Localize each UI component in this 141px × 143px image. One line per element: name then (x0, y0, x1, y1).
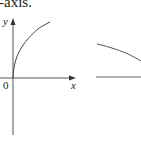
x-axis-label: x (71, 80, 76, 91)
origin-label: 0 (3, 80, 9, 91)
graphs-figure (0, 0, 141, 143)
y-axis-label: y (3, 16, 8, 27)
left-curve (13, 22, 50, 78)
y-axis-arrow-icon (11, 18, 16, 25)
right-curve (97, 44, 141, 61)
